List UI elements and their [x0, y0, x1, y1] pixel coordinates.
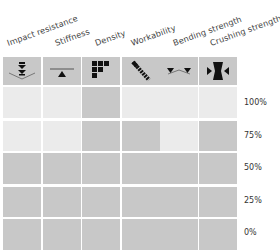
cell-25-crushing	[199, 187, 237, 217]
row-label-0: 0%	[244, 228, 257, 237]
icon-cell-crushing	[199, 57, 237, 85]
cell-0-density	[82, 219, 120, 250]
header-workability: Workability	[130, 23, 177, 48]
cell-0-stiffness	[43, 219, 81, 250]
header-density: Density	[94, 28, 127, 48]
cell-50-density	[82, 153, 120, 184]
crushing-icon	[203, 59, 233, 83]
cell-75-density	[82, 121, 120, 151]
cell-25-bending	[160, 187, 198, 217]
workability-icon	[126, 59, 156, 83]
cell-75-crushing	[199, 121, 237, 151]
cell-0-workability	[122, 219, 160, 250]
cell-75-stiffness	[43, 121, 81, 151]
cell-0-crushing	[199, 219, 237, 250]
cell-100-density	[82, 87, 120, 118]
icon-cell-impact	[3, 57, 41, 85]
cell-50-bending	[160, 153, 198, 184]
cell-50-crushing	[199, 153, 237, 184]
icon-cell-density	[82, 57, 120, 85]
cell-25-stiffness	[43, 187, 81, 217]
cell-75-bending	[160, 121, 198, 151]
cell-50-stiffness	[43, 153, 81, 184]
cell-0-bending	[160, 219, 198, 250]
impact-icon	[7, 60, 37, 82]
stiffness-icon	[47, 60, 77, 82]
cell-25-density	[82, 187, 120, 217]
cell-100-stiffness	[43, 87, 81, 118]
cell-100-impact	[3, 87, 41, 118]
cell-100-crushing	[199, 87, 237, 118]
cell-50-workability	[122, 153, 160, 184]
row-label-50: 50%	[244, 163, 262, 172]
cell-100-bending	[160, 87, 198, 118]
cell-0-impact	[3, 219, 41, 250]
row-label-75: 75%	[244, 131, 262, 140]
bending-icon	[164, 60, 194, 82]
cell-25-workability	[122, 187, 160, 217]
row-label-25: 25%	[244, 196, 262, 205]
icon-cell-bending	[160, 57, 198, 85]
cell-100-workability	[122, 87, 160, 118]
icon-cell-stiffness	[43, 57, 81, 85]
cell-50-impact	[3, 153, 41, 184]
icon-cell-workability	[122, 57, 160, 85]
cell-25-impact	[3, 187, 41, 217]
density-icon	[86, 59, 116, 83]
cell-75-workability	[122, 121, 160, 151]
row-label-100: 100%	[244, 98, 267, 107]
cell-75-impact	[3, 121, 41, 151]
